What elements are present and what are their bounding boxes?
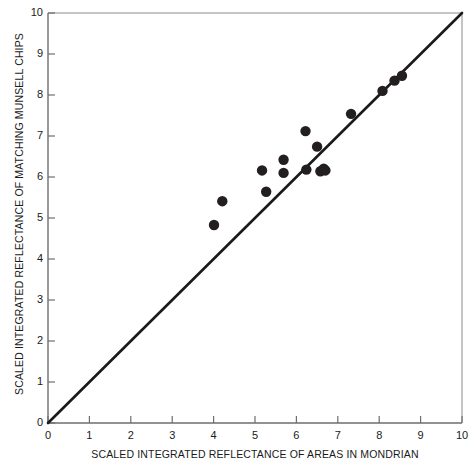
x-axis-ticks (48, 416, 462, 423)
data-point (257, 165, 267, 175)
x-tick-label: 2 (120, 429, 142, 441)
data-point (346, 109, 356, 119)
scatter-plot-figure: 012345678910 012345678910 SCALED INTEGRA… (0, 0, 475, 469)
y-axis-title: SCALED INTEGRATED REFLECTANCE OF MATCHIN… (10, 4, 28, 424)
x-tick-label: 7 (327, 429, 349, 441)
x-axis-title: SCALED INTEGRATED REFLECTANCE OF AREAS I… (48, 448, 462, 460)
data-point-group (209, 71, 407, 231)
data-point (320, 165, 330, 175)
x-tick-label: 10 (451, 429, 473, 441)
data-point (261, 187, 271, 197)
data-point (397, 71, 407, 81)
data-point (217, 196, 227, 206)
x-tick-label: 6 (285, 429, 307, 441)
data-point (300, 126, 310, 136)
plot-canvas (0, 0, 475, 469)
x-tick-label: 3 (161, 429, 183, 441)
x-tick-label: 5 (244, 429, 266, 441)
x-tick-label: 4 (203, 429, 225, 441)
data-point (209, 220, 219, 230)
y-axis-ticks (48, 13, 55, 423)
data-point (278, 155, 288, 165)
x-tick-label: 0 (37, 429, 59, 441)
data-point (301, 164, 311, 174)
data-point (312, 141, 322, 151)
x-tick-label: 9 (410, 429, 432, 441)
data-point (377, 86, 387, 96)
x-tick-label: 1 (78, 429, 100, 441)
data-point (278, 168, 288, 178)
x-tick-label: 8 (368, 429, 390, 441)
